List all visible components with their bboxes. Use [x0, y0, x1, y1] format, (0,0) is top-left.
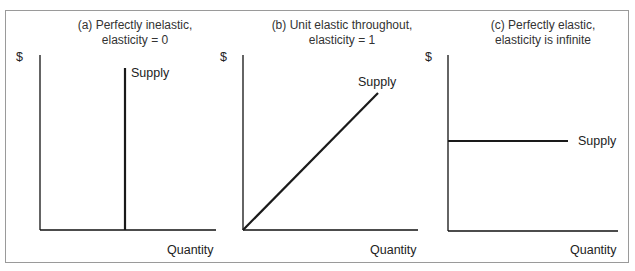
panel-b-supply-curve — [243, 93, 378, 230]
panel-b-title: (b) Unit elastic throughout, elasticity … — [262, 18, 422, 48]
panel-c-supply-label: Supply — [578, 134, 616, 148]
panel-c-y-axis-label: $ — [425, 50, 432, 64]
panel-a-title-line2: elasticity = 0 — [60, 33, 210, 48]
panel-c-title-line1: (c) Perfectly elastic, — [468, 18, 618, 33]
panel-c-x-axis-label: Quantity — [570, 243, 617, 257]
panel-c-title: (c) Perfectly elastic, elasticity is inf… — [468, 18, 618, 48]
panel-a-axes — [40, 55, 216, 230]
panel-a-y-axis-label: $ — [16, 50, 23, 64]
panel-b-x-axis-label: Quantity — [370, 243, 417, 257]
panel-a-title-line1: (a) Perfectly inelastic, — [60, 18, 210, 33]
panel-a-x-axis-label: Quantity — [167, 243, 214, 257]
panel-b-supply-label: Supply — [358, 75, 396, 89]
panel-b-title-line2: elasticity = 1 — [262, 33, 422, 48]
panel-a-supply-label: Supply — [131, 66, 169, 80]
panel-b-title-line1: (b) Unit elastic throughout, — [262, 18, 422, 33]
panel-a-title: (a) Perfectly inelastic, elasticity = 0 — [60, 18, 210, 48]
panel-c-title-line2: elasticity is infinite — [468, 33, 618, 48]
panel-b-y-axis-label: $ — [220, 50, 227, 64]
